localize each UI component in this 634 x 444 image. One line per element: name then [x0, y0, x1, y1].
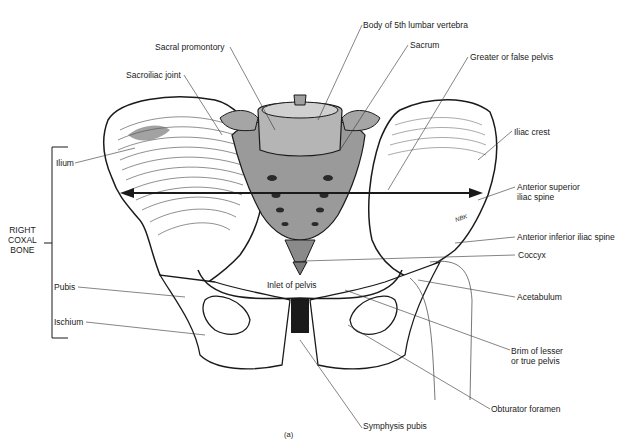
coxal-bone-bracket [44, 147, 68, 338]
label-coccyx: Coccyx [518, 250, 546, 260]
label-body-5th-lumbar-vertebra: Body of 5th lumbar vertebra [363, 20, 468, 30]
label-sacroiliac-joint: Sacroiliac joint [126, 70, 181, 80]
label-greater-false-pelvis: Greater or false pelvis [470, 52, 553, 62]
pelvis-illustration [0, 0, 634, 444]
label-ilium: Ilium [56, 158, 74, 168]
right-ilium [369, 100, 497, 278]
label-symphysis-pubis: Symphysis pubis [363, 421, 427, 431]
coxal-line-1: RIGHT [8, 225, 37, 235]
label-sacral-promontory: Sacral promontory [155, 42, 224, 52]
figure-caption: (a) [284, 430, 293, 440]
label-pubis: Pubis [54, 282, 75, 292]
coxal-line-2: COXAL [8, 235, 37, 245]
label-acetabulum: Acetabulum [517, 292, 562, 302]
label-inlet-of-pelvis: Inlet of pelvis [267, 280, 317, 290]
coxal-line-3: BONE [8, 245, 37, 255]
label-sacrum: Sacrum [410, 40, 439, 50]
label-brim-lesser-true-pelvis: Brim of lesser or true pelvis [511, 346, 563, 366]
asis-line-1: Anterior superior [517, 182, 580, 192]
brim-line-2: or true pelvis [511, 356, 563, 366]
label-anterior-superior-iliac-spine: Anterior superior iliac spine [517, 182, 580, 202]
label-ischium: Ischium [54, 317, 83, 327]
asis-line-2: iliac spine [517, 192, 580, 202]
brim-line-1: Brim of lesser [511, 346, 563, 356]
label-obturator-foramen: Obturator foramen [491, 404, 560, 414]
label-iliac-crest: Iliac crest [514, 127, 550, 137]
label-right-coxal-bone: RIGHT COXAL BONE [8, 225, 37, 255]
label-anterior-inferior-iliac-spine: Anterior inferior iliac spine [517, 232, 615, 242]
